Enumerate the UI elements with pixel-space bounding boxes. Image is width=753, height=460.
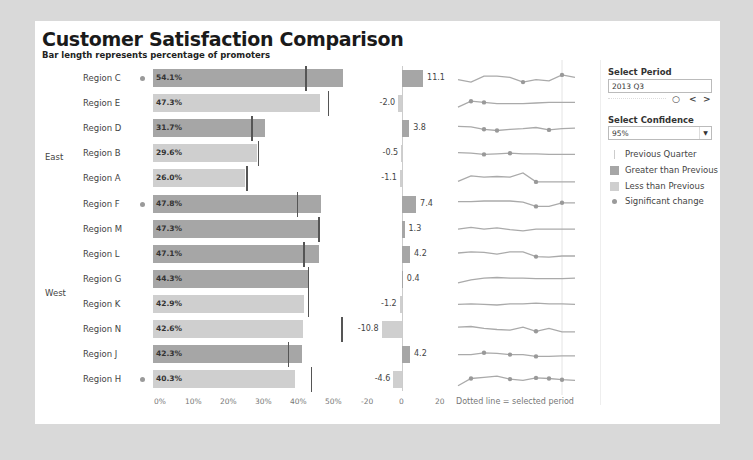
region-label: Region K (83, 299, 120, 309)
previous-quarter-marker (297, 192, 299, 217)
region-row[interactable]: Region J42.3%4.2 (0, 342, 753, 367)
region-row[interactable]: Region N42.6%-10.8 (0, 317, 753, 342)
change-bar[interactable] (393, 371, 402, 388)
change-bar[interactable] (400, 170, 402, 187)
sparkline[interactable] (458, 201, 575, 206)
significant-point-icon (534, 180, 538, 184)
change-bar[interactable] (402, 221, 405, 238)
significant-point-icon (547, 128, 551, 132)
change-value: 4.2 (414, 249, 427, 258)
change-bar[interactable] (400, 296, 402, 313)
period-input[interactable]: 2013 Q3 (608, 79, 712, 93)
significant-point-icon (482, 100, 486, 104)
change-bar[interactable] (402, 120, 409, 137)
change-value: -0.5 (383, 148, 399, 157)
change-bar[interactable] (402, 271, 403, 288)
confidence-dropdown[interactable]: 95% ▼ (608, 126, 712, 140)
sparkline-note: Dotted line = selected period (456, 397, 574, 406)
confidence-value: 95% (612, 129, 629, 138)
significant-change-dot-icon (140, 202, 145, 207)
sparkline[interactable] (458, 353, 575, 357)
change-value: 0.4 (407, 274, 420, 283)
change-value: 7.4 (420, 199, 433, 208)
region-row[interactable]: Region G44.3%0.4 (0, 267, 753, 292)
significant-point-icon (521, 80, 525, 84)
significant-point-icon (482, 351, 486, 355)
change-value: -4.6 (375, 374, 391, 383)
significant-point-icon (469, 376, 473, 380)
sparkline[interactable] (458, 126, 575, 130)
region-row[interactable]: Region K42.9%-1.2 (0, 292, 753, 317)
significant-point-icon (508, 377, 512, 381)
promoter-value: 31.7% (156, 123, 182, 132)
region-label: Region A (83, 173, 121, 183)
select-confidence-label: Select Confidence (608, 115, 694, 125)
sparkline[interactable] (458, 101, 575, 107)
less-swatch-icon (610, 182, 619, 191)
sparkline[interactable] (458, 75, 575, 82)
previous-quarter-marker (303, 242, 305, 267)
promoter-value: 42.9% (156, 299, 182, 308)
significant-point-icon (534, 354, 538, 358)
promoter-value: 26.0% (156, 173, 182, 182)
pct-tick: 40% (290, 397, 307, 406)
change-bar[interactable] (402, 70, 423, 87)
previous-quarter-marker (311, 367, 313, 392)
sparkline[interactable] (458, 376, 575, 386)
change-bar[interactable] (398, 95, 402, 112)
sparkline[interactable] (458, 327, 575, 332)
change-value: -1.2 (381, 299, 397, 308)
panel-divider (600, 60, 601, 405)
promoter-value: 47.3% (156, 98, 182, 107)
change-bar[interactable] (402, 246, 410, 263)
change-tick: 0 (399, 397, 404, 406)
change-bar[interactable] (402, 196, 416, 213)
region-label: Region N (83, 324, 121, 334)
region-row[interactable]: Region E47.3%-2.0 (0, 91, 753, 116)
change-value: 3.8 (413, 123, 426, 132)
sparkline[interactable] (458, 252, 575, 257)
sparkline[interactable] (458, 173, 575, 182)
region-label: Region B (83, 148, 121, 158)
promoter-value: 42.6% (156, 324, 182, 333)
significant-point-icon (495, 128, 499, 132)
period-slider[interactable] (608, 98, 666, 99)
significant-point-icon (469, 99, 473, 103)
select-period-label: Select Period (608, 67, 672, 77)
region-label: Region G (83, 274, 121, 284)
sparkline[interactable] (458, 153, 575, 155)
change-bar[interactable] (401, 145, 402, 162)
previous-period-button[interactable]: < (689, 94, 697, 104)
next-period-button[interactable]: > (703, 94, 711, 104)
previous-quarter-line-icon (614, 150, 615, 159)
chevron-down-icon[interactable]: ▼ (699, 127, 711, 139)
previous-quarter-marker (251, 116, 253, 141)
region-row[interactable]: Region H40.3%-4.6 (0, 367, 753, 392)
sparkline-chart (455, 60, 580, 395)
significant-point-icon (560, 201, 564, 205)
change-value: -2.0 (380, 98, 396, 107)
significant-point-icon (508, 352, 512, 356)
change-tick: 20 (435, 397, 445, 406)
region-label: Region J (83, 349, 117, 359)
sparkline[interactable] (458, 278, 575, 283)
previous-quarter-marker (328, 91, 330, 116)
promoter-value: 29.6% (156, 148, 182, 157)
change-value: 4.2 (414, 349, 427, 358)
region-label: Region L (83, 249, 120, 259)
significant-point-icon (482, 152, 486, 156)
significant-point-icon (534, 254, 538, 258)
region-row[interactable]: Region M47.3%1.3 (0, 217, 753, 242)
significant-point-icon (560, 73, 564, 77)
play-icon[interactable]: ○ (672, 94, 680, 104)
change-bar[interactable] (402, 346, 410, 363)
region-label: Region D (83, 123, 121, 133)
sparkline[interactable] (458, 227, 575, 231)
promoter-value: 42.3% (156, 349, 182, 358)
change-bar[interactable] (382, 321, 403, 338)
region-label: Region M (83, 224, 122, 234)
region-row[interactable]: Region L47.1%4.2 (0, 242, 753, 267)
significant-point-icon (560, 378, 564, 382)
promoter-value: 54.1% (156, 73, 182, 82)
sparkline[interactable] (458, 303, 575, 305)
